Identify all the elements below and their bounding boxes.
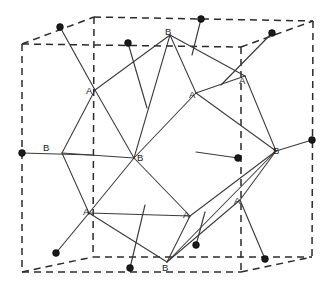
bond-center-right (196, 152, 238, 158)
polyhedron-edge (170, 35, 245, 76)
polyhedron-edge (89, 158, 134, 213)
bond-bottom-left (56, 213, 89, 253)
unit-cell-edge (241, 21, 313, 47)
atom-bottom-mid (127, 265, 134, 272)
unit-cell-outline (22, 17, 313, 272)
bond-top-back-right (221, 33, 272, 85)
label-b-top: B (165, 27, 171, 37)
polyhedron-edge (95, 35, 170, 90)
polyhedron-edge (95, 90, 134, 158)
bond-top-front-mid (128, 43, 147, 108)
label-a-upper-left: A (86, 86, 92, 96)
bond-top-back-left (60, 27, 95, 90)
atom-top-back-mid (198, 16, 205, 23)
label-a-upper-mid: A (189, 90, 195, 100)
polyhedron-edge (196, 76, 245, 93)
polyhedron-edge (134, 158, 190, 216)
atom-bottom-left (53, 250, 60, 257)
atom-top-back-left (57, 24, 64, 31)
polyhedron-edge (89, 213, 190, 216)
unit-cell-edge (241, 257, 312, 272)
label-a-upper-right: A (239, 76, 245, 86)
label-b-bottom: B (162, 263, 168, 273)
bond-right-edge-mid (276, 140, 312, 151)
bond-bottom-right (240, 200, 265, 259)
atom-bottom-right (262, 256, 269, 263)
atoms-group (19, 16, 316, 272)
unit-cell-edge (22, 44, 241, 47)
label-b-center: B (137, 153, 143, 163)
polyhedron-edge (167, 200, 240, 262)
polyhedron-edge (240, 151, 276, 200)
unit-cell-edge (22, 257, 93, 272)
unit-cell-edge (22, 17, 94, 44)
polyhedron-edge (89, 213, 167, 262)
polyhedron-edge (167, 216, 190, 262)
unit-cell-edge (93, 17, 94, 257)
atom-center-right (235, 155, 242, 162)
atom-bottom-back-mid (193, 242, 200, 249)
polyhedron-edge (170, 35, 196, 93)
atom-right-edge-mid (309, 137, 316, 144)
label-a-lower-left: A (83, 207, 89, 217)
label-a-lower-mid: A (183, 210, 189, 220)
polyhedron-edge (62, 90, 95, 153)
bond-lines-group (22, 19, 312, 268)
label-b-left: B (43, 143, 49, 153)
polyhedron-edge (62, 153, 134, 158)
atom-left-edge-mid (19, 150, 26, 157)
crystal-structure-canvas (0, 0, 331, 287)
label-a-lower-right: A (234, 196, 240, 206)
crystal-structure-figure: BAAABBBAAAB (0, 0, 331, 287)
polyhedron-edge (62, 153, 89, 213)
atom-top-back-right (269, 30, 276, 37)
label-b-right: B (273, 146, 279, 156)
atom-top-front-mid (125, 40, 132, 47)
